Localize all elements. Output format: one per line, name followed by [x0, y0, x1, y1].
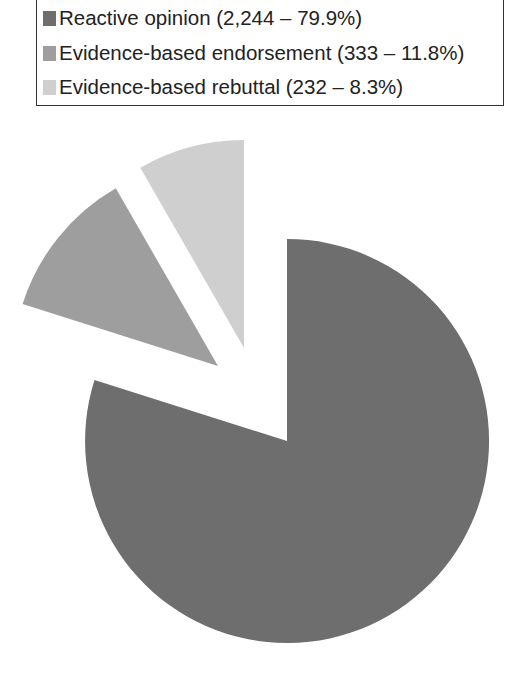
- pie-chart: [0, 0, 514, 679]
